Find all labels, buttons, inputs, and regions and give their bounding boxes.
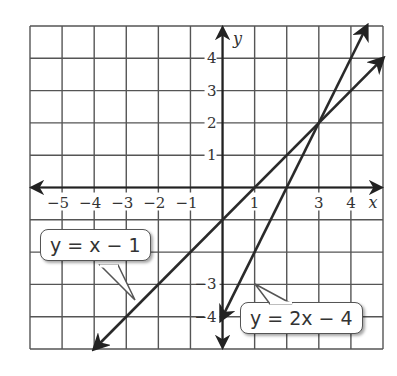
svg-text:−4: −4 bbox=[79, 194, 101, 212]
axes bbox=[32, 28, 381, 347]
svg-text:1: 1 bbox=[250, 194, 260, 212]
svg-text:−4: −4 bbox=[194, 308, 216, 326]
svg-text:3: 3 bbox=[314, 194, 324, 212]
tick-labels: −5−4−3−2−11344321−3−4xy bbox=[45, 29, 377, 326]
equation-label-2: y = 2x − 4 bbox=[250, 307, 353, 329]
equation-label-1: y = x − 1 bbox=[50, 234, 141, 256]
svg-text:−5: −5 bbox=[47, 194, 69, 212]
callout-line1: y = x − 1 bbox=[40, 229, 151, 261]
svg-text:2: 2 bbox=[207, 114, 217, 132]
svg-text:−1: −1 bbox=[175, 194, 197, 212]
svg-text:4: 4 bbox=[207, 49, 217, 67]
svg-text:y: y bbox=[232, 29, 243, 48]
svg-text:3: 3 bbox=[207, 82, 217, 100]
svg-text:−3: −3 bbox=[111, 194, 133, 212]
callout-line2: y = 2x − 4 bbox=[240, 302, 363, 334]
svg-text:1: 1 bbox=[207, 146, 217, 164]
svg-text:4: 4 bbox=[346, 194, 356, 212]
svg-text:−2: −2 bbox=[143, 194, 165, 212]
svg-text:−3: −3 bbox=[194, 275, 216, 293]
svg-text:x: x bbox=[368, 193, 377, 212]
